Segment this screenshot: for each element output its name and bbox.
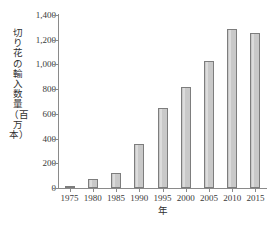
- bar: [250, 33, 260, 188]
- y-axis-tick-mark: [53, 139, 58, 140]
- x-axis-tick-mark: [139, 188, 140, 192]
- y-axis-tick-mark: [53, 89, 58, 90]
- y-axis-tick-mark: [53, 15, 58, 16]
- x-axis-tick-mark: [163, 188, 164, 192]
- y-axis-tick-mark: [53, 64, 58, 65]
- bar: [158, 108, 168, 188]
- x-axis-tick-mark: [255, 188, 256, 192]
- x-axis-tick-mark: [70, 188, 71, 192]
- x-axis-tick-label: 2015: [240, 193, 270, 203]
- bar: [204, 61, 214, 188]
- y-axis-tick-mark: [53, 40, 58, 41]
- x-axis-title: 年: [58, 206, 267, 216]
- x-axis-tick-mark: [93, 188, 94, 192]
- bar: [134, 144, 144, 188]
- x-axis-tick-mark: [186, 188, 187, 192]
- bar-chart-figure: 切り花の輸入数量（百万本） 02004006008001,0001,2001,4…: [0, 0, 275, 226]
- x-axis-tick-mark: [116, 188, 117, 192]
- x-axis-tick-mark: [232, 188, 233, 192]
- y-axis-tick-mark: [53, 114, 58, 115]
- x-axis-tick-mark: [209, 188, 210, 192]
- y-axis-tick-mark: [53, 188, 58, 189]
- bar: [181, 87, 191, 188]
- y-axis-tick-mark: [53, 163, 58, 164]
- bar: [88, 179, 98, 188]
- bar: [227, 29, 237, 188]
- bar: [111, 173, 121, 188]
